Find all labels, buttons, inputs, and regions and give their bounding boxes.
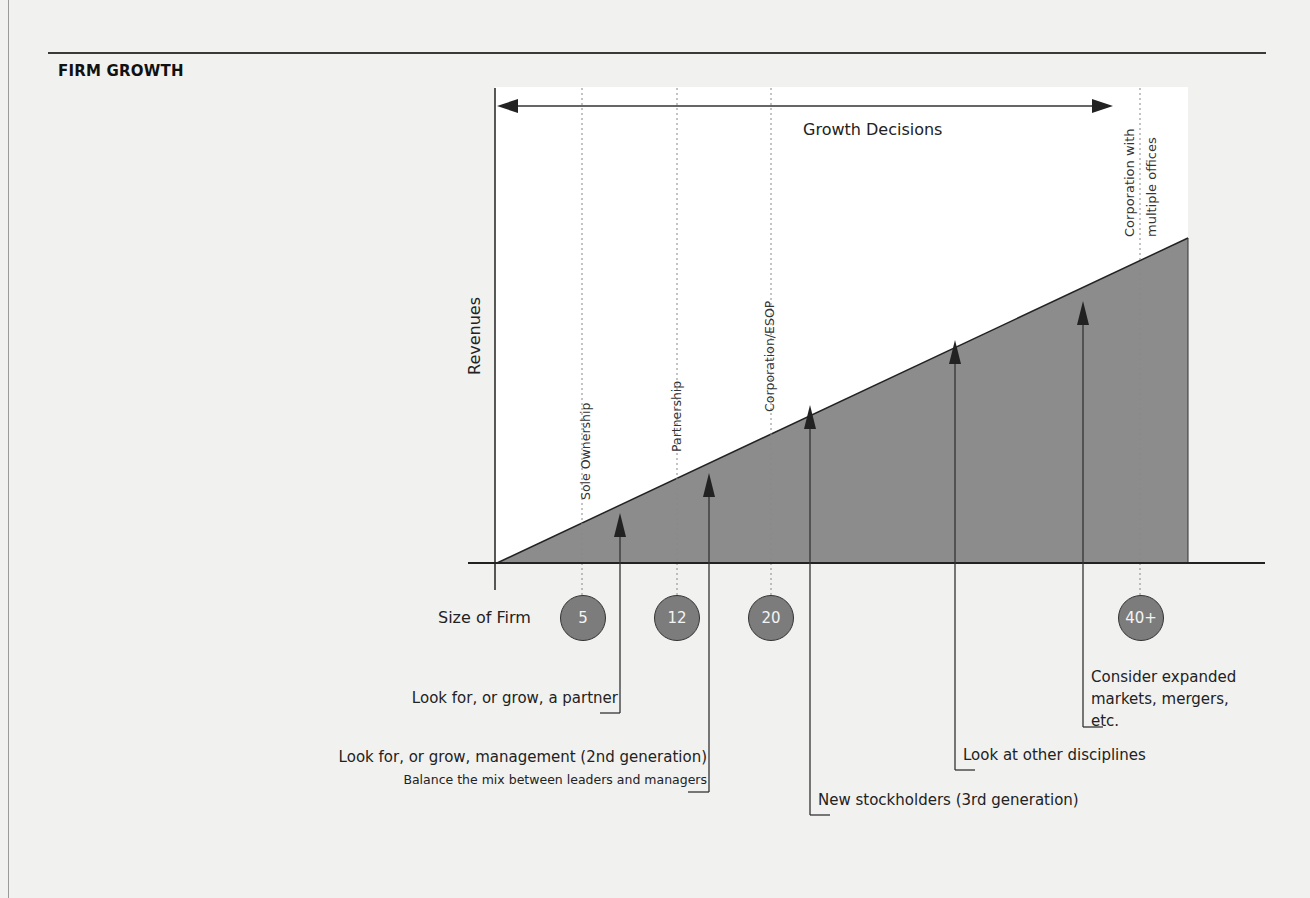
decision-management: Look for, or grow, management (2nd gener…	[339, 748, 707, 766]
size-badge-12: 12	[654, 595, 700, 641]
arrowhead-left	[497, 99, 518, 113]
stage-label-corporation-multi-line1: Corporation with	[1122, 128, 1137, 237]
stage-label-partnership: Partnership	[669, 381, 684, 452]
arrowhead-right	[1092, 99, 1113, 113]
decision-partner: Look for, or grow, a partner	[412, 689, 618, 707]
stage-label-sole-ownership: Sole Ownership	[578, 403, 593, 500]
size-badge-5: 5	[560, 595, 606, 641]
decision-other-disciplines: Look at other disciplines	[963, 746, 1146, 764]
y-axis-label: Revenues	[465, 297, 484, 375]
decision-new-stockholders: New stockholders (3rd generation)	[818, 791, 1079, 809]
decision-expanded-markets: Consider expanded markets, mergers, etc.	[1091, 666, 1251, 732]
x-axis-label: Size of Firm	[438, 608, 531, 627]
stage-label-corporation-esop: Corporation/ESOP	[762, 301, 777, 412]
decision-management-subtext: Balance the mix between leaders and mana…	[403, 772, 707, 787]
size-badge-20: 20	[748, 595, 794, 641]
stage-label-corporation-multi-line2: multiple offices	[1144, 137, 1159, 237]
growth-decisions-label: Growth Decisions	[803, 120, 942, 139]
size-badge-40plus: 40+	[1118, 595, 1164, 641]
